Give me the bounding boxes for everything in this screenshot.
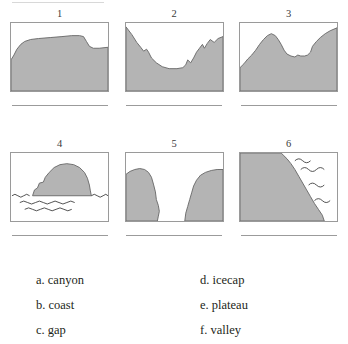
answer-line-1[interactable]	[12, 105, 108, 106]
figure-number-6: 6	[286, 138, 291, 150]
option-e-plateau[interactable]: e. plateau	[200, 293, 248, 318]
figure-number-4: 4	[57, 138, 62, 150]
figure-cell-6: 6	[238, 138, 339, 236]
figure-number-1: 1	[57, 8, 62, 20]
figure-number-5: 5	[171, 138, 176, 150]
water-waves-icon	[12, 194, 108, 211]
icecap-profile-icon	[11, 153, 108, 221]
answer-options-right-column: d. icecap e. plateau f. valley	[200, 268, 248, 343]
answer-line-2[interactable]	[126, 105, 222, 106]
coast-profile-icon	[240, 153, 337, 221]
figures-row-top: 1 2 3	[0, 8, 348, 106]
figure-box-canyon	[125, 152, 224, 222]
plateau-profile-icon	[11, 23, 108, 91]
page-top-rule	[12, 2, 104, 3]
answer-line-3[interactable]	[241, 105, 337, 106]
figure-number-2: 2	[171, 8, 176, 20]
answer-line-4[interactable]	[12, 235, 108, 236]
option-b-coast[interactable]: b. coast	[36, 293, 176, 318]
figure-cell-2: 2	[124, 8, 225, 106]
canyon-profile-icon	[126, 153, 223, 221]
figure-box-gap	[239, 22, 338, 92]
figure-cell-5: 5	[124, 138, 225, 236]
answer-line-5[interactable]	[126, 235, 222, 236]
figure-cell-4: 4	[9, 138, 110, 236]
figure-box-icecap	[10, 152, 109, 222]
valley-profile-icon	[126, 23, 223, 91]
option-f-valley[interactable]: f. valley	[200, 318, 248, 343]
figure-box-coast	[239, 152, 338, 222]
figure-cell-1: 1	[9, 8, 110, 106]
answer-options: a. canyon b. coast c. gap d. icecap e. p…	[0, 268, 348, 343]
figures-row-bottom: 4 5	[0, 138, 348, 236]
gap-profile-icon	[240, 23, 337, 91]
figure-box-valley	[125, 22, 224, 92]
figure-number-3: 3	[286, 8, 291, 20]
option-a-canyon[interactable]: a. canyon	[36, 268, 176, 293]
answer-line-6[interactable]	[241, 235, 337, 236]
option-c-gap[interactable]: c. gap	[36, 318, 176, 343]
option-d-icecap[interactable]: d. icecap	[200, 268, 248, 293]
figure-cell-3: 3	[238, 8, 339, 106]
answer-options-left-column: a. canyon b. coast c. gap	[36, 268, 176, 343]
figure-box-plateau	[10, 22, 109, 92]
